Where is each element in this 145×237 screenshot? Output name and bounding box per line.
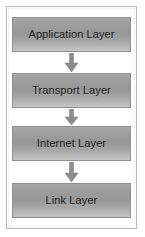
layer-stack: Application Layer Transport Layer Intern… [6,6,137,229]
layer-label: Transport Layer [32,85,111,96]
layer-label: Application Layer [28,29,114,40]
protocol-stack-diagram: Application Layer Transport Layer Intern… [0,0,145,237]
arrow-down-icon [64,162,79,182]
layer-box-link: Link Layer [12,183,131,218]
layer-box-internet: Internet Layer [12,126,131,161]
layer-label: Internet Layer [37,138,106,149]
layer-box-application: Application Layer [12,17,131,52]
layer-box-transport: Transport Layer [12,73,131,108]
arrow-down-icon [64,53,79,72]
arrow-down-icon [64,109,79,125]
layer-label: Link Layer [46,195,98,206]
